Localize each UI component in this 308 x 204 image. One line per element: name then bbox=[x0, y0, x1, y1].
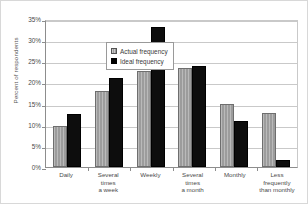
bar-actual bbox=[53, 126, 67, 167]
y-axis-tick-6: 5% bbox=[1, 144, 41, 150]
bar-actual bbox=[95, 91, 109, 167]
plot-area: Actual frequency Ideal frequency bbox=[45, 20, 298, 168]
legend-item-actual: Actual frequency bbox=[111, 46, 168, 56]
x-axis-label-5: Lessfrequentlythan monthly bbox=[256, 171, 298, 194]
x-axis-label-3: Severaltimesa month bbox=[172, 171, 214, 194]
x-axis-label-1: Severaltimesa week bbox=[87, 171, 129, 194]
y-axis-tick-labels: 35%30%25%20%15%10%5%0% bbox=[1, 20, 41, 168]
bar-ideal bbox=[192, 66, 206, 167]
chart-legend: Actual frequency Ideal frequency bbox=[106, 42, 174, 70]
legend-label-ideal: Ideal frequency bbox=[120, 58, 164, 65]
legend-item-ideal: Ideal frequency bbox=[111, 56, 168, 66]
x-axis-tick-labels: DailySeveraltimesa weekWeeklySeveraltime… bbox=[45, 171, 298, 194]
bar-ideal bbox=[234, 121, 248, 167]
y-axis-tick-1: 30% bbox=[1, 38, 41, 44]
bar-group bbox=[213, 21, 255, 167]
bar-ideal bbox=[109, 78, 123, 167]
y-axis-tick-7: 0% bbox=[1, 165, 41, 171]
y-axis-tick-2: 25% bbox=[1, 59, 41, 65]
y-axis-tick-4: 15% bbox=[1, 101, 41, 107]
bar-group bbox=[255, 21, 297, 167]
y-axis-tick-0: 35% bbox=[1, 17, 41, 23]
legend-swatch-solid-black-icon bbox=[111, 58, 117, 64]
chart-container: Percent of respondents 35%30%25%20%15%10… bbox=[0, 0, 308, 204]
bar-group bbox=[171, 21, 213, 167]
y-axis-tick-3: 20% bbox=[1, 80, 41, 86]
bar-ideal bbox=[67, 114, 81, 167]
bar-actual bbox=[178, 68, 192, 167]
bar-actual bbox=[262, 113, 276, 167]
bar-actual bbox=[220, 104, 234, 167]
bar-actual bbox=[137, 71, 151, 167]
bar-group bbox=[46, 21, 88, 167]
x-axis-label-2: Weekly bbox=[129, 171, 171, 194]
legend-swatch-hatched-gray-icon bbox=[111, 48, 117, 54]
x-axis-label-0: Daily bbox=[45, 171, 87, 194]
y-axis-tick-5: 10% bbox=[1, 123, 41, 129]
bar-ideal bbox=[276, 160, 290, 167]
x-axis-label-4: Monthly bbox=[214, 171, 256, 194]
y-tickmark-7 bbox=[42, 169, 46, 170]
legend-label-actual: Actual frequency bbox=[120, 48, 168, 55]
